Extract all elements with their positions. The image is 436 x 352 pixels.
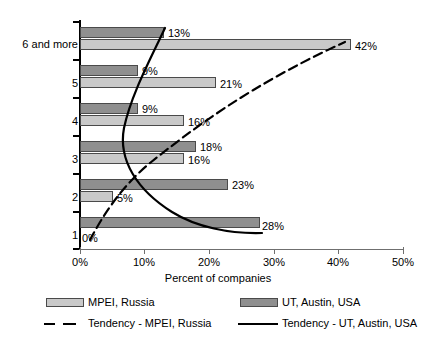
y-axis-labels: 6 and more 5 4 3 2 1 [0,0,78,270]
bar-value-ut-1: 28% [262,221,284,232]
x-axis-title: Percent of companies [0,272,436,284]
legend-swatch-ut [240,298,278,307]
legend-swatch-tendency-mpei [44,319,84,328]
x-axis-tick [403,247,404,254]
bar-value-mpei-4: 16% [188,117,210,128]
x-tick-label-50: 50% [383,256,423,268]
y-tick-label-2: 2 [4,191,78,203]
bar-value-mpei-2: 5% [117,193,133,204]
legend-item-ut: UT, Austin, USA [240,296,360,308]
legend-label-tendency-mpei: Tendency - MPEI, Russia [88,317,212,329]
x-tick-label-40: 40% [318,256,358,268]
x-axis-tick [338,249,339,254]
x-tick-label-0: 0% [60,256,100,268]
bar-mpei-4 [80,115,184,126]
bar-value-ut-2: 23% [232,180,254,191]
bar-ut-3 [80,141,196,152]
bar-value-ut-5: 9% [142,66,158,77]
bar-mpei-6-and-more [80,39,351,50]
bar-ut-1 [80,217,260,228]
legend-item-mpei: MPEI, Russia [46,296,155,308]
x-tick-label-10: 10% [124,256,164,268]
x-axis-tick [80,247,81,254]
bar-value-mpei-1: 0% [82,233,98,244]
bar-value-mpei-5: 21% [220,79,242,90]
y-tick-label-6-and-more: 6 and more [4,38,78,50]
bar-value-mpei-3: 16% [188,155,210,166]
bar-mpei-2 [80,191,113,202]
chart-container: 6 and more 5 4 3 2 1 13% 42% 9% 21% 9% 1… [0,0,436,352]
bar-value-ut-3: 18% [200,142,222,153]
bar-ut-2 [80,179,228,190]
y-tick-label-4: 4 [4,115,78,127]
bar-value-mpei-6-and-more: 42% [355,41,377,52]
legend-label-tendency-ut: Tendency - UT, Austin, USA [282,317,417,329]
y-tick-label-5: 5 [4,77,78,89]
bar-ut-6-and-more [80,27,164,38]
y-axis-line [79,20,81,250]
legend-item-tendency-mpei: Tendency - MPEI, Russia [44,317,212,329]
x-tick-label-20: 20% [189,256,229,268]
bar-value-ut-4: 9% [142,104,158,115]
x-axis-tick [274,249,275,254]
bar-value-ut-6-and-more: 13% [168,28,190,39]
bar-mpei-3 [80,153,184,164]
bar-ut-4 [80,103,138,114]
x-axis-line [79,249,404,250]
tendency-line-ut [123,28,262,233]
legend-label-mpei: MPEI, Russia [88,296,155,308]
y-tick-label-1: 1 [4,229,78,241]
y-tick-label-3: 3 [4,153,78,165]
legend-item-tendency-ut: Tendency - UT, Austin, USA [238,317,417,329]
legend-swatch-mpei [46,298,84,307]
x-axis-tick [144,249,145,254]
x-axis-tick [209,249,210,254]
bar-mpei-5 [80,77,216,88]
bar-ut-5 [80,65,138,76]
chart-legend: MPEI, Russia UT, Austin, USA Tendency - … [0,292,436,342]
x-tick-label-30: 30% [254,256,294,268]
legend-label-ut: UT, Austin, USA [282,296,360,308]
legend-swatch-tendency-ut [238,319,278,328]
